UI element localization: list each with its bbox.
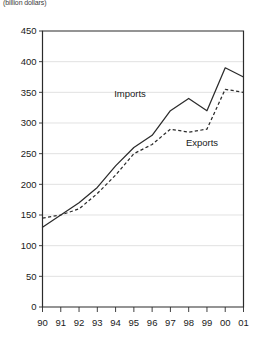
x-axis-tick-labels: 909192939495969798990001 bbox=[37, 317, 249, 328]
y-axis-tick-label: 200 bbox=[21, 179, 37, 190]
plot-frame bbox=[43, 31, 244, 307]
x-axis-tick-label: 00 bbox=[220, 317, 231, 328]
x-axis-tick-label: 92 bbox=[74, 317, 85, 328]
x-axis-tick-label: 98 bbox=[183, 317, 194, 328]
x-axis-tick-label: 01 bbox=[238, 317, 249, 328]
y-axis-tick-label: 300 bbox=[21, 117, 37, 128]
y-axis-tick-label: 350 bbox=[21, 87, 37, 98]
series-label-imports: Imports bbox=[114, 88, 146, 99]
x-axis-tick-marks bbox=[43, 307, 244, 312]
y-axis-tick-label: 50 bbox=[26, 271, 37, 282]
y-axis-tick-label: 0 bbox=[31, 301, 36, 312]
y-axis-tick-label: 400 bbox=[21, 56, 37, 67]
x-axis-tick-label: 95 bbox=[129, 317, 140, 328]
x-axis-tick-label: 97 bbox=[165, 317, 176, 328]
y-axis-tick-label: 450 bbox=[21, 25, 37, 36]
x-axis-tick-label: 99 bbox=[202, 317, 213, 328]
y-axis-tick-label: 250 bbox=[21, 148, 37, 159]
x-axis-tick-label: 96 bbox=[147, 317, 158, 328]
chart-plot-area: 050100150200250300350400450 909192939495… bbox=[0, 0, 258, 345]
line-chart: (billion dollars) 0501001502002503003504… bbox=[0, 0, 258, 345]
x-axis-tick-label: 91 bbox=[55, 317, 66, 328]
x-axis-tick-label: 94 bbox=[110, 317, 121, 328]
y-axis-tick-label: 100 bbox=[21, 240, 37, 251]
y-axis-tick-label: 150 bbox=[21, 209, 37, 220]
series-annotations: ImportsExports bbox=[114, 88, 218, 148]
y-axis-tick-labels: 050100150200250300350400450 bbox=[21, 25, 37, 312]
x-axis-tick-label: 93 bbox=[92, 317, 103, 328]
x-axis-tick-label: 90 bbox=[37, 317, 48, 328]
series-label-exports: Exports bbox=[186, 137, 218, 148]
